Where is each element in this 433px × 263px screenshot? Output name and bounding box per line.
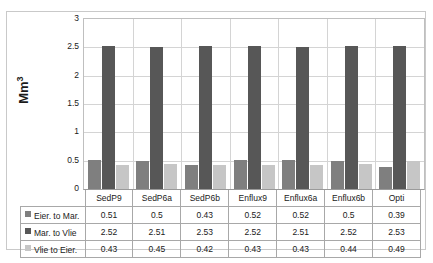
y-axis-tick-label: 1 [53, 127, 79, 136]
bar [310, 165, 323, 189]
data-table: SedP9SedP6aSedP6bEnflux9Enflux6aEnflux6b… [20, 190, 421, 258]
y-axis-title: Mm3 [15, 60, 31, 120]
table-cell-value: 0.5 [133, 207, 181, 224]
bar [407, 161, 420, 189]
y-axis-title-superscript: 3 [15, 76, 25, 81]
table-cell-value: 0.51 [85, 207, 133, 224]
table-cell-value: 2.53 [181, 224, 229, 241]
plot-area [83, 18, 425, 190]
table-cell-value: 0.43 [85, 241, 133, 258]
legend-swatch-icon [25, 211, 31, 217]
legend-entry: Eier. to Mar. [21, 207, 86, 224]
table-header-row: SedP9SedP6aSedP6bEnflux9Enflux6aEnflux6b… [21, 190, 421, 207]
table-cell-value: 0.5 [325, 207, 373, 224]
y-axis-tick-label: 3 [53, 14, 79, 23]
bar [88, 160, 101, 189]
table-column-header: SedP6a [133, 190, 181, 207]
legend-label: Mar. to Vlie [34, 227, 77, 237]
table-corner-cell [21, 190, 86, 207]
bar [359, 164, 372, 189]
table-cell-value: 0.39 [373, 207, 421, 224]
legend-swatch-icon [25, 228, 31, 234]
legend-label: Vlie to Eier. [34, 244, 77, 254]
table-column-header: SedP9 [85, 190, 133, 207]
y-axis-tick-label: 2 [53, 70, 79, 79]
bar [185, 165, 198, 189]
table-cell-value: 0.42 [181, 241, 229, 258]
table-cell-value: 2.53 [373, 224, 421, 241]
table-cell-value: 2.52 [325, 224, 373, 241]
y-axis-tick-label: 0.5 [53, 155, 79, 164]
bar [213, 165, 226, 189]
bar [248, 46, 261, 189]
bar [102, 46, 115, 189]
bar [116, 165, 129, 189]
table-cell-value: 0.52 [277, 207, 325, 224]
table-column-header: Enflux6a [277, 190, 325, 207]
table-column-header: Opti [373, 190, 421, 207]
table-cell-value: 0.43 [277, 241, 325, 258]
bar [379, 167, 392, 189]
table-cell-value: 0.45 [133, 241, 181, 258]
plot-region: Mm3 00.511.522.53 [7, 12, 427, 192]
table-column-header: Enflux9 [229, 190, 277, 207]
bars-layer [84, 19, 424, 189]
legend-swatch-icon [25, 245, 31, 251]
legend-label: Eier. to Mar. [34, 210, 79, 220]
y-axis-title-text: Mm [16, 81, 31, 103]
table-row: Eier. to Mar.0.510.50.430.520.520.50.39 [21, 207, 421, 224]
bar [282, 160, 295, 189]
bar [331, 161, 344, 189]
y-axis-tick-labels: 00.511.522.53 [53, 12, 79, 192]
bar [393, 46, 406, 189]
chart-frame: Mm3 00.511.522.53 SedP9SedP6aSedP6bEnflu… [6, 11, 426, 250]
bar [296, 47, 309, 189]
table-row: Vlie to Eier.0.430.450.420.430.430.440.4… [21, 241, 421, 258]
bar [199, 46, 212, 189]
table-cell-value: 0.44 [325, 241, 373, 258]
table-cell-value: 2.51 [277, 224, 325, 241]
bar [136, 161, 149, 189]
bar [164, 164, 177, 190]
legend-entry: Mar. to Vlie [21, 224, 86, 241]
table-column-header: Enflux6b [325, 190, 373, 207]
table-cell-value: 0.49 [373, 241, 421, 258]
legend-entry: Vlie to Eier. [21, 241, 86, 258]
table-cell-value: 0.43 [181, 207, 229, 224]
y-axis-tick-label: 1.5 [53, 99, 79, 108]
y-axis-tick-label: 2.5 [53, 42, 79, 51]
table-row: Mar. to Vlie2.522.512.532.522.512.522.53 [21, 224, 421, 241]
table-cell-value: 2.51 [133, 224, 181, 241]
bar [262, 165, 275, 189]
table-cell-value: 0.43 [229, 241, 277, 258]
bar [345, 46, 358, 189]
table-cell-value: 0.52 [229, 207, 277, 224]
table-cell-value: 2.52 [85, 224, 133, 241]
bar [150, 47, 163, 189]
bar [234, 160, 247, 189]
table-column-header: SedP6b [181, 190, 229, 207]
table-cell-value: 2.52 [229, 224, 277, 241]
